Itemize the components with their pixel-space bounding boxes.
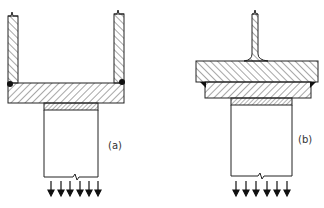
weld-left-icon [200,82,206,88]
bearing-strip [44,103,98,110]
panel-label-b: (b) [298,134,312,145]
tee-stem [244,14,268,61]
left-vertical-plate [8,12,18,83]
panel-a [7,10,125,196]
column-body [231,105,292,179]
panel-b [196,10,318,196]
weld-left-icon [7,81,13,87]
diagram-canvas [0,0,324,208]
weld-right-icon [119,79,125,85]
panel-label-a: (a) [108,140,122,151]
base-plate [8,83,124,103]
load-arrows [48,181,101,196]
weld-right-icon [310,82,316,88]
lower-plate [205,82,311,98]
column-body [44,110,98,180]
bearing-strip [231,98,292,105]
load-arrows [233,181,290,196]
right-vertical-plate [114,10,124,83]
top-plate [196,61,318,82]
